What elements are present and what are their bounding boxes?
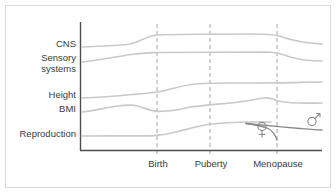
y-label-bmi: BMI (20, 103, 76, 114)
y-label-reproduction: Reproduction (6, 128, 76, 139)
curve-reproduction (82, 122, 271, 136)
curve-sensory-systems (82, 52, 322, 62)
male-symbol-icon (308, 114, 320, 126)
x-label-puberty: Puberty (184, 158, 238, 169)
y-label-height: Height (20, 89, 76, 100)
x-label-menopause: Menopause (243, 158, 313, 169)
curve-bmi (82, 98, 322, 112)
curve-cns (82, 34, 322, 47)
life-course-function-chart: CNS Sensory systems Height BMI Reproduct… (0, 0, 336, 193)
chart-axes (80, 22, 322, 151)
event-dashed-lines (157, 24, 277, 156)
y-label-sensory-systems: Sensory systems (14, 52, 76, 74)
x-label-birth: Birth (132, 158, 184, 169)
y-label-cns: CNS (20, 38, 76, 49)
curve-height (82, 82, 322, 98)
